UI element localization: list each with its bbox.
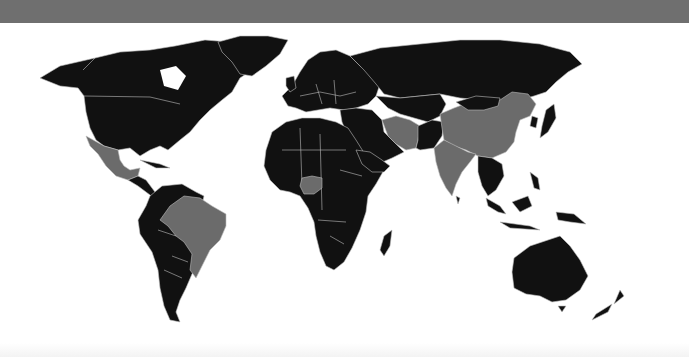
region-central-asia[interactable]: [376, 94, 446, 122]
country-new-zealand[interactable]: [592, 290, 624, 320]
country-madagascar[interactable]: [380, 230, 392, 256]
country-philippines[interactable]: [530, 172, 540, 190]
country-sri-lanka[interactable]: [456, 196, 460, 204]
country-korea[interactable]: [530, 116, 538, 128]
world-map-svg: [0, 23, 689, 357]
world-map: [0, 23, 689, 357]
region-southeast-asia[interactable]: [478, 156, 504, 196]
country-indonesia[interactable]: [486, 196, 540, 230]
country-papua-new-guinea[interactable]: [556, 212, 586, 224]
bottom-fade: [0, 343, 689, 357]
header-band: [0, 0, 689, 23]
country-russia[interactable]: [350, 40, 582, 104]
country-tasmania[interactable]: [558, 306, 566, 312]
country-cuba[interactable]: [140, 160, 170, 168]
country-australia[interactable]: [512, 236, 588, 302]
country-japan[interactable]: [540, 104, 556, 138]
